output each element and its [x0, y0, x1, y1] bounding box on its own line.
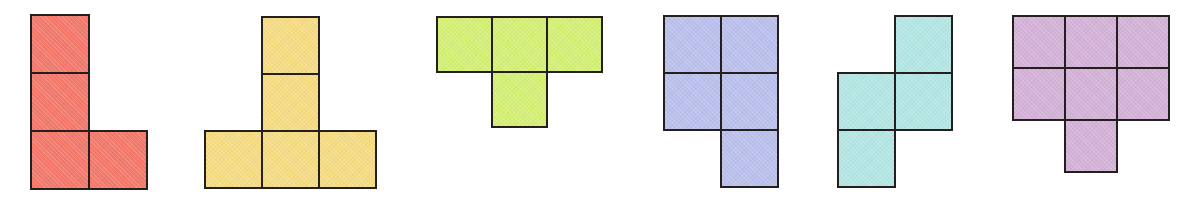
polyomino-gap	[838, 16, 895, 73]
polyomino-gap	[895, 130, 952, 187]
polyomino-cell[interactable]	[1064, 15, 1118, 69]
polyomino-cell[interactable]	[663, 72, 722, 131]
polyomino-cell[interactable]	[1116, 15, 1170, 69]
cyan-s-tetromino[interactable]	[838, 16, 952, 187]
polyomino-gap	[1117, 120, 1169, 172]
yellow-t-pentomino[interactable]	[205, 17, 376, 188]
polyomino-cell[interactable]	[1116, 67, 1170, 121]
polyomino-cell[interactable]	[261, 73, 320, 132]
polyomino-cell[interactable]	[720, 72, 779, 131]
polyomino-cell[interactable]	[30, 14, 90, 74]
polyomino-cell[interactable]	[837, 129, 896, 188]
polyomino-gap	[89, 15, 147, 73]
polyomino-cell[interactable]	[837, 72, 896, 131]
polyomino-cell[interactable]	[1064, 119, 1118, 173]
polyomino-cell[interactable]	[663, 15, 722, 74]
polyomino-cell[interactable]	[88, 130, 148, 190]
purple-heptomino[interactable]	[1013, 16, 1169, 172]
polyomino-cell[interactable]	[894, 72, 953, 131]
polyomino-cell[interactable]	[204, 130, 263, 189]
polyomino-cell[interactable]	[491, 71, 548, 128]
polyomino-gap	[1013, 120, 1065, 172]
polyomino-cell[interactable]	[1012, 67, 1066, 121]
polyomino-cell[interactable]	[261, 130, 320, 189]
polyomino-cell[interactable]	[720, 15, 779, 74]
polyomino-gap	[319, 74, 376, 131]
polyomino-gap	[319, 17, 376, 74]
polyomino-cell[interactable]	[546, 16, 603, 73]
polyomino-cell[interactable]	[30, 130, 90, 190]
polyomino-gap	[205, 17, 262, 74]
blue-p-pentomino[interactable]	[664, 16, 778, 187]
polyomino-cell[interactable]	[1064, 67, 1118, 121]
polyomino-cell[interactable]	[720, 129, 779, 188]
polyomino-gap	[437, 72, 492, 127]
polyomino-cell[interactable]	[261, 16, 320, 75]
polyomino-gap	[664, 130, 721, 187]
polyomino-gap	[89, 73, 147, 131]
polyomino-cell[interactable]	[894, 15, 953, 74]
polyomino-cell[interactable]	[318, 130, 377, 189]
polyomino-gap	[205, 74, 262, 131]
polyomino-cell[interactable]	[1012, 15, 1066, 69]
polyomino-cell[interactable]	[30, 72, 90, 132]
polyomino-canvas	[0, 0, 1193, 197]
polyomino-gap	[547, 72, 602, 127]
polyomino-cell[interactable]	[436, 16, 493, 73]
green-t-tetromino[interactable]	[437, 17, 602, 127]
red-l-tetromino[interactable]	[31, 15, 147, 189]
polyomino-cell[interactable]	[491, 16, 548, 73]
